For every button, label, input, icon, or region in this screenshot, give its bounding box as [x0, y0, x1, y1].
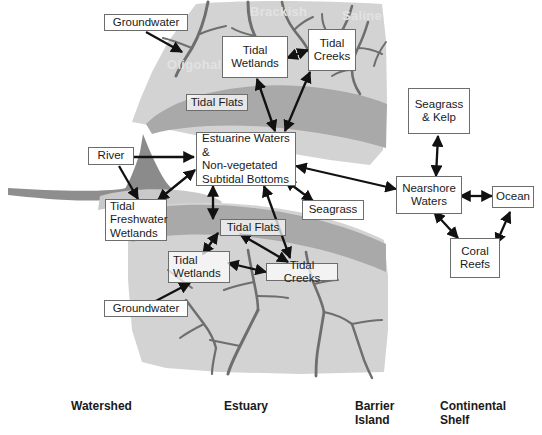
- node-coral-reefs[interactable]: Coral Reefs: [450, 238, 500, 278]
- diagram-canvas: Brackish Saline Oligohaline Groundwater …: [0, 0, 542, 435]
- node-tidal-creeks-bottom[interactable]: Tidal Creeks: [266, 263, 338, 281]
- node-tidal-flats-bottom[interactable]: Tidal Flats: [220, 219, 286, 236]
- node-tidal-wetlands-bottom[interactable]: Tidal Wetlands: [168, 251, 230, 283]
- arrow-nearshore-coralreefs: [434, 212, 458, 238]
- zone-label-estuary: Estuary: [224, 399, 268, 413]
- node-nearshore-waters[interactable]: Nearshore Waters: [396, 176, 462, 214]
- node-seagrass[interactable]: Seagrass: [302, 200, 364, 220]
- zone-label-watershed: Watershed: [71, 399, 132, 413]
- node-tidal-wetlands-top[interactable]: Tidal Wetlands: [222, 36, 288, 78]
- zone-label-continental-shelf: Continental Shelf: [440, 399, 506, 427]
- node-groundwater-top[interactable]: Groundwater: [104, 14, 188, 31]
- node-tidal-creeks-top[interactable]: Tidal Creeks: [308, 29, 356, 71]
- node-estuarine-waters[interactable]: Estuarine Waters & Non-vegetated Subtida…: [196, 132, 296, 186]
- node-groundwater-bottom[interactable]: Groundwater: [104, 300, 188, 317]
- node-tidal-freshwater-wetlands[interactable]: Tidal Freshwater Wetlands: [105, 199, 167, 241]
- zone-label-barrier-island: Barrier Island: [355, 399, 394, 427]
- arrow-estuarine-nearshore: [296, 166, 396, 189]
- node-river[interactable]: River: [88, 147, 134, 165]
- node-tidal-flats-top[interactable]: Tidal Flats: [186, 94, 248, 111]
- node-ocean[interactable]: Ocean: [492, 186, 534, 208]
- arrow-nearshore-seagrasskelp: [436, 136, 438, 176]
- node-seagrass-kelp[interactable]: Seagrass & Kelp: [408, 88, 470, 134]
